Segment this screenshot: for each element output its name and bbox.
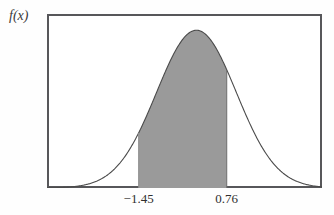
normal-distribution-figure: f(x) −1.45 0.76: [0, 0, 334, 215]
shaded-area-region: [139, 30, 227, 188]
y-axis-label: f(x): [9, 8, 28, 24]
x-tick-label-upper-bound: 0.76: [215, 191, 238, 207]
x-tick-label-lower-bound: −1.45: [124, 191, 154, 207]
density-curve-plot: [47, 14, 322, 188]
